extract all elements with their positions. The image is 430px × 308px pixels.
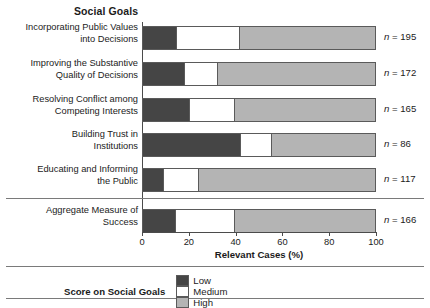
legend: Score on Social Goals LowMediumHigh [0, 266, 430, 300]
sample-size-value: = 165 [389, 103, 416, 114]
bar-row-label-line2: Success [3, 217, 138, 229]
legend-item: Medium [176, 286, 227, 297]
stacked-bar [142, 98, 376, 122]
legend-content: Score on Social Goals LowMediumHigh [64, 275, 234, 308]
x-axis-tick-label: 60 [262, 237, 302, 247]
legend-item-label: Low [193, 275, 211, 286]
legend-item-label: High [193, 297, 213, 308]
sample-size-value: = 86 [389, 138, 411, 149]
stacked-bar [142, 26, 376, 50]
legend-heading: Score on Social Goals [64, 286, 165, 297]
legend-swatch-high [176, 297, 189, 308]
table-row: Building Trust inInstitutionsn = 86 [0, 129, 430, 165]
legend-item: High [176, 297, 227, 308]
stacked-bar [142, 209, 376, 233]
stacked-bar [142, 62, 376, 86]
legend-swatch-medium [176, 286, 189, 297]
bar-segment-low [143, 169, 163, 191]
bar-row-label-line1: Resolving Conflict among [3, 94, 138, 106]
sample-size-value: = 172 [389, 67, 416, 78]
x-axis-line [142, 232, 376, 233]
x-axis-tick [376, 232, 377, 236]
bar-row-label: Aggregate Measure ofSuccess [3, 205, 138, 228]
plot-area: Incorporating Public Valuesinto Decision… [0, 22, 430, 240]
page-title: Social Goals [74, 5, 138, 17]
sample-size-label: n = 172 [384, 67, 416, 78]
bar-row-label-line2: into Decisions [3, 34, 138, 46]
bar-segment-high [239, 27, 375, 49]
bar-segment-high [271, 134, 376, 156]
sample-size-value: = 117 [389, 173, 415, 184]
x-axis-tick [282, 232, 283, 236]
sample-size-label: n = 165 [384, 103, 416, 114]
x-axis-tick [329, 232, 330, 236]
bar-row-label-line1: Building Trust in [3, 129, 138, 141]
legend-items: LowMediumHigh [176, 275, 234, 308]
table-row: Educating and Informingthe Publicn = 117 [0, 164, 430, 200]
bar-segment-medium [189, 99, 234, 121]
bar-row-label-line1: Educating and Informing [3, 164, 138, 176]
bar-segment-medium [176, 27, 239, 49]
bar-segment-low [143, 27, 176, 49]
bar-row-label: Building Trust inInstitutions [3, 129, 138, 152]
x-axis-tick [236, 232, 237, 236]
bar-row-label-line1: Incorporating Public Values [3, 22, 138, 34]
bar-row-label: Resolving Conflict amongCompeting Intere… [3, 94, 138, 117]
bar-segment-high [234, 210, 375, 232]
bar-segment-medium [163, 169, 199, 191]
bar-segment-low [143, 134, 240, 156]
x-axis-tick [189, 232, 190, 236]
sample-size-label: n = 86 [384, 138, 411, 149]
bar-segment-low [143, 99, 189, 121]
bar-segment-medium [175, 210, 235, 232]
legend-item: Low [176, 275, 227, 286]
table-row: Improving the SubstantiveQuality of Deci… [0, 58, 430, 94]
legend-top-rule [6, 266, 424, 267]
aggregate-separator [6, 198, 424, 199]
x-axis-title: Relevant Cases (%) [142, 249, 376, 260]
table-row: Incorporating Public Valuesinto Decision… [0, 22, 430, 58]
bar-segment-high [234, 99, 375, 121]
bar-segment-medium [184, 63, 216, 85]
stacked-bar [142, 168, 376, 192]
bar-row-label: Educating and Informingthe Public [3, 164, 138, 187]
sample-size-label: n = 195 [384, 31, 416, 42]
bar-segment-medium [240, 134, 271, 156]
x-axis: 020406080100 Relevant Cases (%) [142, 232, 376, 262]
bar-row-label-line2: Competing Interests [3, 106, 138, 118]
x-axis-tick-label: 40 [216, 237, 256, 247]
sample-size-value: = 166 [389, 214, 416, 225]
x-axis-tick-label: 100 [356, 237, 396, 247]
x-axis-tick-label: 0 [122, 237, 162, 247]
table-row: Resolving Conflict amongCompeting Intere… [0, 94, 430, 130]
stacked-bar [142, 133, 376, 157]
x-axis-tick [142, 232, 143, 236]
bar-row-label: Improving the SubstantiveQuality of Deci… [3, 58, 138, 81]
bar-row-label-line2: Quality of Decisions [3, 70, 138, 82]
bar-row-label-line1: Improving the Substantive [3, 58, 138, 70]
bar-row-label-line2: the Public [3, 176, 138, 188]
x-axis-tick-label: 20 [169, 237, 209, 247]
bar-segment-high [198, 169, 375, 191]
bar-segment-low [143, 210, 175, 232]
sample-size-value: = 195 [389, 31, 416, 42]
bar-row-label-line2: Institutions [3, 141, 138, 153]
sample-size-label: n = 166 [384, 214, 416, 225]
bar-segment-low [143, 63, 184, 85]
sample-size-label: n = 117 [384, 173, 416, 184]
bar-row-label: Incorporating Public Valuesinto Decision… [3, 22, 138, 45]
legend-item-label: Medium [193, 286, 227, 297]
x-axis-tick-label: 80 [309, 237, 349, 247]
legend-swatch-low [176, 275, 189, 286]
bar-segment-high [217, 63, 375, 85]
bar-row-label-line1: Aggregate Measure of [3, 205, 138, 217]
